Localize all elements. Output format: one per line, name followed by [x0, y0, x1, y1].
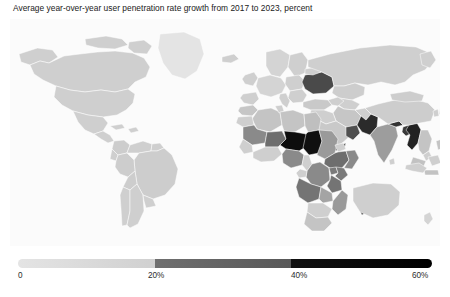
legend-segment-low: [18, 259, 155, 268]
country-uk-ireland[interactable]: [242, 72, 258, 86]
country-west-africa-coast[interactable]: [253, 147, 282, 162]
country-united-states[interactable]: [54, 86, 135, 117]
country-scandinavia[interactable]: [266, 49, 290, 77]
country-greenland[interactable]: [158, 32, 204, 79]
legend-tick-0: 0: [18, 271, 23, 280]
country-india[interactable]: [370, 124, 398, 163]
country-new-zealand[interactable]: [424, 212, 433, 225]
legend-gradient-bar: [18, 259, 432, 268]
country-poland-centraleu[interactable]: [285, 75, 305, 91]
color-legend: 0 20% 40% 60%: [0, 252, 450, 292]
country-borneo[interactable]: [428, 155, 440, 166]
country-venezuela[interactable]: [127, 141, 152, 153]
legend-tick-60: 60%: [412, 271, 428, 280]
country-libya[interactable]: [280, 110, 305, 132]
legend-segment-mid: [155, 259, 292, 268]
country-iberia[interactable]: [240, 92, 259, 105]
country-cuba[interactable]: [110, 124, 125, 130]
legend-segment-high: [291, 259, 432, 268]
country-canada-arctic-isles[interactable]: [85, 36, 128, 49]
world-map-svg[interactable]: [10, 19, 440, 246]
world-map-panel[interactable]: [10, 19, 440, 246]
country-mongolia[interactable]: [390, 91, 424, 102]
country-gabon-congo[interactable]: [296, 169, 307, 178]
legend-tick-labels: 0 20% 40% 60%: [0, 271, 450, 283]
choropleth-chart: Average year-over-year user penetration …: [0, 0, 450, 297]
country-balkans[interactable]: [288, 89, 307, 103]
country-thailand-indochina[interactable]: [418, 130, 432, 155]
country-iceland[interactable]: [222, 54, 239, 63]
country-australia[interactable]: [353, 183, 400, 218]
map-countries: [19, 19, 440, 231]
country-indonesia-java[interactable]: [424, 170, 439, 175]
legend-tick-40: 40%: [291, 271, 307, 280]
legend-tick-20: 20%: [148, 271, 164, 280]
country-turkey[interactable]: [303, 99, 332, 110]
country-sri-lanka[interactable]: [389, 158, 395, 165]
chart-title: Average year-over-year user penetration …: [13, 3, 312, 13]
country-caribbean-isles[interactable]: [128, 127, 139, 133]
country-mozambique[interactable]: [332, 190, 348, 215]
country-baffin-island[interactable]: [128, 40, 152, 54]
country-egypt[interactable]: [304, 112, 321, 132]
country-central-america[interactable]: [94, 131, 114, 143]
country-nigeria[interactable]: [282, 149, 304, 168]
country-philippines[interactable]: [436, 139, 440, 150]
